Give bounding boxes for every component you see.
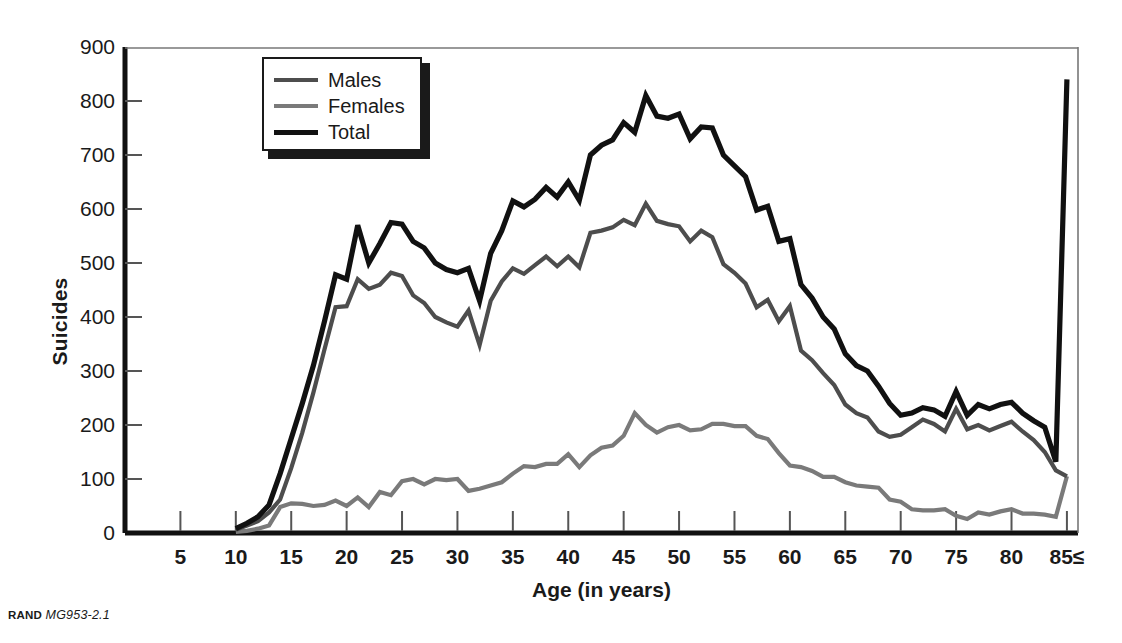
legend-item-females[interactable]: Females (274, 93, 420, 119)
figure-source-note: RAND MG953-2.1 (8, 608, 110, 622)
y-tick-label: 100 (51, 468, 115, 489)
rand-label: RAND (8, 609, 42, 621)
x-tick-label: 85≤ (1032, 546, 1102, 567)
y-tick-label: 500 (51, 252, 115, 273)
y-tick-label: 600 (51, 198, 115, 219)
y-tick-label: 900 (51, 36, 115, 57)
legend-swatch-males (274, 78, 318, 82)
y-tick-label: 300 (51, 360, 115, 381)
legend-item-total[interactable]: Total (274, 119, 420, 145)
y-tick-label: 400 (51, 306, 115, 327)
y-tick-label: 0 (51, 522, 115, 543)
chart-legend[interactable]: MalesFemalesTotal (262, 57, 422, 151)
legend-label-males: Males (328, 70, 381, 90)
y-tick-label: 700 (51, 144, 115, 165)
figure-root: Suicides Age (in years) 0100200300400500… (0, 0, 1122, 643)
y-tick-label: 200 (51, 414, 115, 435)
legend-label-females: Females (328, 96, 405, 116)
x-axis-title-label: Age (in years) (532, 578, 671, 601)
series-line-males (236, 204, 1067, 530)
figure-code: MG953-2.1 (46, 608, 110, 622)
x-axis-title: Age (in years) (125, 578, 1078, 602)
legend-swatch-total (274, 130, 318, 135)
legend-item-males[interactable]: Males (274, 67, 420, 93)
legend-swatch-females (274, 104, 318, 108)
legend-label-total: Total (328, 122, 370, 142)
y-tick-label: 800 (51, 90, 115, 111)
